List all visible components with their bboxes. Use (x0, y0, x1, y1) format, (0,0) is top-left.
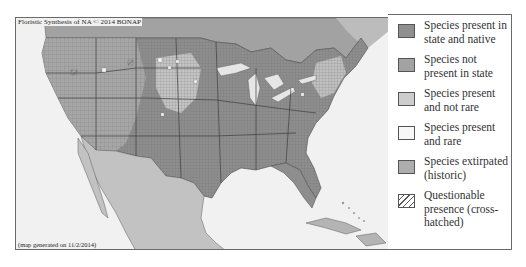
legend-label: Species present and rare (424, 121, 512, 148)
legend-label: Species extirpated (historic) (424, 155, 512, 182)
legend-label: Species present in state and native (424, 19, 512, 46)
legend-item-present-native: Species present in state and native (398, 19, 512, 46)
swatch-present-native-icon (398, 24, 415, 38)
cuba (306, 218, 361, 234)
legend-label: Species present and not rare (424, 87, 512, 114)
legend-item-not-present: Species not present in state (398, 53, 512, 80)
swatch-extirpated-icon (398, 160, 415, 174)
distribution-map: Floristic Synthesis of NA © 2014 BONAP (… (15, 17, 389, 250)
swatch-not-present-icon (398, 58, 415, 72)
legend-label: Questionable presence (cross-hatched) (424, 189, 512, 230)
map-title: Floristic Synthesis of NA © 2014 BONAP (17, 18, 142, 26)
swatch-present-not-rare-icon (398, 92, 415, 106)
legend-item-questionable: Questionable presence (cross-hatched) (398, 189, 512, 230)
legend-item-present-rare: Species present and rare (398, 121, 512, 148)
legend-label: Species not present in state (424, 53, 512, 80)
swatch-hatched-icon (398, 194, 415, 208)
swatch-present-rare-icon (398, 126, 415, 140)
north-america-county-map (16, 18, 389, 250)
map-generated-date: (map generated on 11/2/2014) (18, 241, 96, 248)
map-legend: Species present in state and native Spec… (388, 14, 512, 250)
legend-item-extirpated: Species extirpated (historic) (398, 155, 512, 182)
legend-item-present-not-rare: Species present and not rare (398, 87, 512, 114)
